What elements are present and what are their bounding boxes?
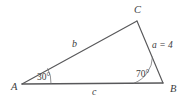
side-label-b: b bbox=[72, 38, 77, 49]
vertex-label-a: A bbox=[10, 81, 18, 92]
vertex-label-b: B bbox=[170, 83, 177, 94]
angle-label-b: 70° bbox=[136, 69, 150, 79]
angle-label-a: 30° bbox=[37, 72, 51, 82]
triangle-figure: A B C a = 4 b c 30° 70° bbox=[0, 0, 194, 100]
vertex-label-c: C bbox=[134, 4, 142, 15]
triangle-side-c-line bbox=[22, 83, 163, 84]
side-label-c: c bbox=[92, 86, 97, 97]
triangle-diagram: A B C a = 4 b c 30° 70° bbox=[0, 0, 194, 100]
side-label-a: a = 4 bbox=[152, 40, 173, 50]
